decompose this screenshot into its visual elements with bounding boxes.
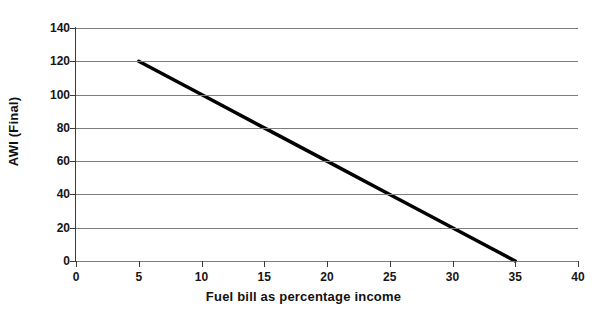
x-axis-tick-label: 25 (370, 270, 410, 284)
x-axis-tick-mark (578, 261, 579, 267)
gridline-horizontal (76, 161, 578, 162)
gridline-horizontal (76, 228, 578, 229)
y-axis-tick-label: 60 (34, 154, 70, 168)
x-axis-tick-label: 35 (495, 270, 535, 284)
x-axis-tick-label: 0 (56, 270, 96, 284)
gridline-horizontal (76, 128, 578, 129)
y-axis-title: AWI (Final) (0, 0, 28, 262)
x-axis-tick-label: 30 (433, 270, 473, 284)
y-axis-tick-mark (70, 128, 76, 129)
x-axis-tick-mark (264, 261, 265, 267)
x-axis-tick-mark (453, 261, 454, 267)
x-axis-tick-label: 15 (244, 270, 284, 284)
x-axis-tick-label: 5 (119, 270, 159, 284)
x-axis-tick-mark (202, 261, 203, 267)
gridline-horizontal (76, 95, 578, 96)
x-axis-title: Fuel bill as percentage income (0, 289, 607, 304)
y-axis-tick-mark (70, 161, 76, 162)
y-axis-tick-label: 80 (34, 121, 70, 135)
y-axis-tick-label: 20 (34, 221, 70, 235)
y-axis-tick-mark (70, 194, 76, 195)
y-axis-tick-mark (70, 28, 76, 29)
y-axis-tick-label: 120 (34, 54, 70, 68)
y-axis-tick-labels: 020406080100120140 (26, 0, 70, 300)
y-axis-title-label: AWI (Final) (7, 96, 22, 165)
y-axis-tick-mark (70, 228, 76, 229)
gridline-horizontal (76, 28, 578, 29)
y-axis-tick-mark (70, 95, 76, 96)
x-axis-tick-label: 20 (307, 270, 347, 284)
x-axis-tick-mark (515, 261, 516, 267)
x-axis-title-label: Fuel bill as percentage income (206, 289, 401, 304)
chart-figure: AWI (Final) 020406080100120140 Fuel bill… (0, 0, 607, 318)
plot-area (76, 28, 578, 261)
x-axis-tick-label: 10 (182, 270, 222, 284)
gridline-horizontal (76, 194, 578, 195)
y-axis-tick-label: 0 (34, 254, 70, 268)
gridline-horizontal (76, 61, 578, 62)
x-axis-tick-mark (76, 261, 77, 267)
y-axis-tick-label: 100 (34, 88, 70, 102)
x-axis-tick-mark (390, 261, 391, 267)
x-axis-tick-label: 40 (558, 270, 598, 284)
data-series-layer (76, 28, 578, 261)
y-axis-tick-label: 140 (34, 21, 70, 35)
y-axis-tick-mark (70, 61, 76, 62)
x-axis-tick-mark (327, 261, 328, 267)
y-axis-tick-label: 40 (34, 187, 70, 201)
x-axis-tick-mark (139, 261, 140, 267)
